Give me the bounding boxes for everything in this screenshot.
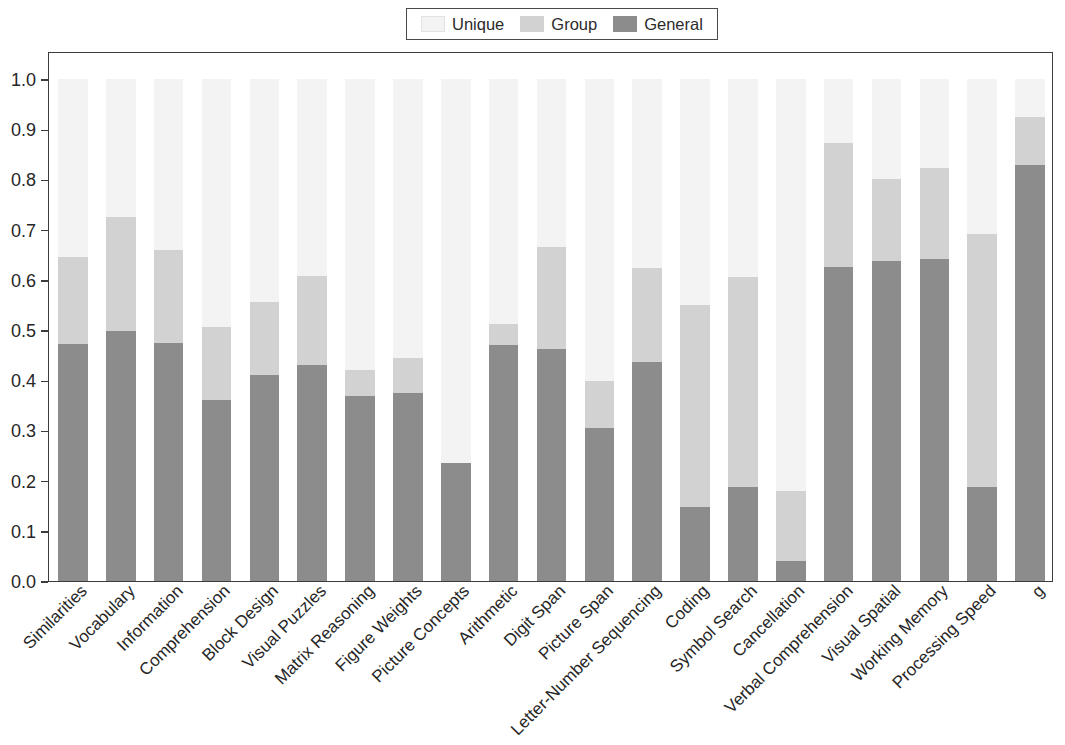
segment-group bbox=[154, 250, 184, 343]
segment-group bbox=[1015, 117, 1045, 166]
segment-group bbox=[202, 327, 232, 401]
segment-group bbox=[489, 324, 519, 345]
segment-group bbox=[106, 217, 136, 331]
segment-general bbox=[1015, 165, 1045, 581]
segment-general bbox=[872, 261, 902, 581]
x-tick-label: g bbox=[1028, 582, 1047, 601]
bar-working-memory bbox=[920, 52, 950, 581]
legend-entry-unique: Unique bbox=[421, 16, 504, 33]
bar-visual-spatial bbox=[872, 52, 902, 581]
bar-vocabulary bbox=[106, 52, 136, 581]
y-tick-mark bbox=[41, 130, 48, 131]
segment-unique bbox=[393, 79, 423, 358]
y-tick-mark bbox=[41, 230, 48, 231]
segment-general bbox=[920, 259, 950, 581]
segment-unique bbox=[632, 79, 662, 268]
segment-general bbox=[967, 487, 997, 581]
segment-unique bbox=[967, 79, 997, 234]
segment-unique bbox=[728, 79, 758, 277]
bar-processing-speed bbox=[967, 52, 997, 581]
segment-unique bbox=[585, 79, 615, 381]
segment-group bbox=[585, 381, 615, 428]
segment-unique bbox=[441, 79, 471, 463]
bar-visual-puzzles bbox=[297, 52, 327, 581]
segment-unique bbox=[872, 79, 902, 179]
y-tick-mark bbox=[41, 481, 48, 482]
y-tick-label: 0.3 bbox=[11, 422, 36, 440]
segment-unique bbox=[58, 79, 88, 257]
bar-verbal-comprehension bbox=[824, 52, 854, 581]
segment-group bbox=[872, 179, 902, 261]
segment-group bbox=[58, 257, 88, 344]
bar-block-design bbox=[250, 52, 280, 581]
y-tick-label: 0.7 bbox=[11, 221, 36, 239]
legend-label-general: General bbox=[644, 16, 703, 33]
segment-general bbox=[250, 375, 280, 581]
bar-figure-weights bbox=[393, 52, 423, 581]
legend-label-unique: Unique bbox=[452, 16, 504, 33]
segment-group bbox=[967, 234, 997, 487]
segment-group bbox=[297, 276, 327, 365]
y-tick-mark bbox=[41, 330, 48, 331]
bar-matrix-reasoning bbox=[345, 52, 375, 581]
segment-group bbox=[393, 358, 423, 393]
segment-unique bbox=[1015, 79, 1045, 117]
segment-unique bbox=[680, 79, 710, 305]
segment-general bbox=[728, 487, 758, 581]
bar-comprehension bbox=[202, 52, 232, 581]
y-tick-label: 0.2 bbox=[11, 472, 36, 490]
segment-group bbox=[728, 277, 758, 487]
legend-swatch-group bbox=[520, 16, 544, 32]
y-axis: 0.00.10.20.30.40.50.60.70.80.91.0 bbox=[0, 52, 48, 582]
segment-group bbox=[537, 247, 567, 349]
segment-group bbox=[920, 168, 950, 259]
bar-letter-number-sequencing bbox=[632, 52, 662, 581]
y-tick-label: 0.6 bbox=[11, 271, 36, 289]
segment-group bbox=[632, 268, 662, 362]
segment-group bbox=[345, 370, 375, 396]
chart-legend: Unique Group General bbox=[406, 8, 718, 40]
y-tick-mark bbox=[41, 280, 48, 281]
bar-cancellation bbox=[776, 52, 806, 581]
segment-group bbox=[824, 143, 854, 267]
segment-general bbox=[824, 267, 854, 581]
segment-general bbox=[202, 400, 232, 581]
bar-g bbox=[1015, 52, 1045, 581]
legend-entry-general: General bbox=[613, 16, 703, 33]
segment-group bbox=[680, 305, 710, 507]
segment-general bbox=[680, 507, 710, 581]
legend-label-group: Group bbox=[551, 16, 597, 33]
y-tick-label: 0.4 bbox=[11, 372, 36, 390]
bar-picture-span bbox=[585, 52, 615, 581]
segment-unique bbox=[297, 79, 327, 276]
segment-general bbox=[489, 345, 519, 581]
segment-unique bbox=[106, 79, 136, 217]
segment-unique bbox=[154, 79, 184, 250]
y-tick-mark bbox=[41, 381, 48, 382]
legend-entry-group: Group bbox=[520, 16, 597, 33]
segment-unique bbox=[776, 79, 806, 491]
segment-unique bbox=[920, 79, 950, 168]
y-tick-mark bbox=[41, 531, 48, 532]
segment-unique bbox=[250, 79, 280, 302]
segment-group bbox=[776, 491, 806, 561]
segment-general bbox=[632, 362, 662, 581]
segment-general bbox=[297, 365, 327, 581]
segment-general bbox=[441, 463, 471, 581]
bar-picture-concepts bbox=[441, 52, 471, 581]
segment-group bbox=[250, 302, 280, 375]
bar-information bbox=[154, 52, 184, 581]
segment-unique bbox=[345, 79, 375, 370]
y-tick-mark bbox=[41, 431, 48, 432]
bar-similarities bbox=[58, 52, 88, 581]
y-tick-mark bbox=[41, 79, 48, 80]
segment-unique bbox=[202, 79, 232, 326]
stacked-bar-chart-figure: Unique Group General 0.00.10.20.30.40.50… bbox=[0, 0, 1065, 745]
bars-layer bbox=[49, 53, 1052, 581]
y-tick-label: 0.9 bbox=[11, 121, 36, 139]
legend-swatch-general bbox=[613, 16, 637, 32]
bar-arithmetic bbox=[489, 52, 519, 581]
x-axis: SimilaritiesVocabularyInformationCompreh… bbox=[0, 582, 1065, 745]
y-tick-mark bbox=[41, 180, 48, 181]
plot-area bbox=[48, 52, 1053, 582]
